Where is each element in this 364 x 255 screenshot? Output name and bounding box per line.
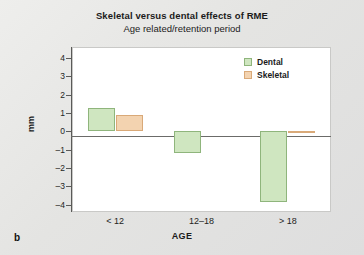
y-axis-tick-label: –4 (41, 201, 65, 209)
y-axis-tick-label: 1 (41, 109, 65, 117)
x-axis-tick-label: > 18 (253, 216, 323, 226)
bar-dental-0 (88, 108, 115, 132)
y-axis-tick-label: –3 (41, 182, 65, 190)
chart-subtitle: Age related/retention period (0, 22, 364, 35)
bar-skeletal-0 (116, 115, 143, 132)
y-axis-tick-label: –2 (41, 164, 65, 172)
chart-title: Skeletal versus dental effects of RME (0, 10, 364, 22)
bar-dental-2 (260, 131, 287, 202)
y-axis-tick-label: 4 (41, 54, 65, 62)
y-axis-tick (66, 113, 71, 114)
y-axis-tick-label: –1 (41, 146, 65, 154)
y-axis-tick-label: 0 (41, 127, 65, 135)
y-axis-tick (66, 150, 71, 151)
legend-item-skeletal: Skeletal (244, 69, 289, 80)
y-axis-tick (66, 168, 71, 169)
y-axis-tick (66, 131, 71, 132)
zero-baseline (71, 136, 331, 137)
y-axis-tick-label: 2 (41, 91, 65, 99)
x-axis-tick-label: 12–18 (167, 216, 237, 226)
x-axis-title: AGE (0, 231, 364, 241)
legend-item-dental: Dental (244, 56, 289, 67)
title-block: Skeletal versus dental effects of RME Ag… (0, 10, 364, 35)
y-axis-tick (66, 76, 71, 77)
y-axis-tick (66, 205, 71, 206)
y-axis-title: mm (26, 116, 36, 132)
figure-panel: Skeletal versus dental effects of RME Ag… (0, 0, 364, 255)
legend-swatch-icon (244, 71, 252, 79)
panel-label: b (14, 232, 20, 243)
y-axis-spine (71, 47, 72, 212)
x-axis-tick-label: < 12 (80, 216, 150, 226)
legend-label: Dental (257, 57, 283, 67)
y-axis-tick (66, 186, 71, 187)
legend: DentalSkeletal (244, 56, 289, 82)
bar-skeletal-2 (288, 131, 315, 133)
legend-label: Skeletal (257, 70, 289, 80)
legend-swatch-icon (244, 58, 252, 66)
y-axis-tick-label: 3 (41, 72, 65, 80)
y-axis-tick (66, 58, 71, 59)
y-axis-tick (66, 95, 71, 96)
bar-dental-1 (174, 131, 201, 153)
